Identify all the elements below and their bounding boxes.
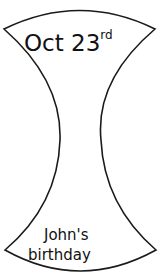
- hourglass-tag-shape: Oct 23rd John's birthday: [0, 0, 160, 276]
- bottom-line-1: John's: [43, 226, 89, 244]
- top-date-text: Oct 23rd: [24, 28, 113, 56]
- bottom-line-2: birthday: [28, 246, 91, 264]
